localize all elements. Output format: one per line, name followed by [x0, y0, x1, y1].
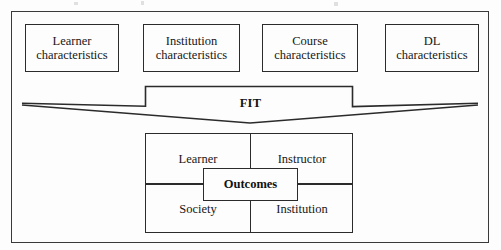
input-box-institution-characteristics: Institution characteristics [143, 24, 240, 72]
input-box-line2: characteristics [396, 48, 467, 62]
scan-artifact [141, 1, 144, 5]
outcomes-cell-label: Instructor [278, 152, 327, 167]
outcomes-center-box: Outcomes [203, 168, 298, 201]
input-box-line2: characteristics [156, 48, 227, 62]
input-box-line1: Learner [36, 34, 107, 48]
input-box-line2: characteristics [274, 48, 345, 62]
input-box-line1: DL [396, 34, 467, 48]
input-box-text: DL characteristics [394, 34, 469, 62]
input-box-line2: characteristics [36, 48, 107, 62]
outcomes-center-label: Outcomes [224, 177, 277, 192]
outcomes-cell-label: Society [179, 202, 217, 217]
input-box-text: Learner characteristics [34, 34, 109, 62]
input-box-line1: Institution [156, 34, 227, 48]
input-box-course-characteristics: Course characteristics [262, 24, 358, 72]
diagram-canvas: Learner characteristics Institution char… [0, 0, 501, 250]
input-box-learner-characteristics: Learner characteristics [25, 24, 119, 72]
fit-label: FIT [0, 96, 501, 111]
input-box-text: Course characteristics [272, 34, 347, 62]
outcomes-cell-label: Learner [179, 152, 218, 167]
input-box-dl-characteristics: DL characteristics [385, 24, 479, 72]
scan-artifact [334, 2, 338, 6]
outcomes-cell-label: Institution [276, 202, 327, 217]
scan-artifact [74, 2, 78, 5]
input-box-line1: Course [274, 34, 345, 48]
input-box-text: Institution characteristics [154, 34, 229, 62]
